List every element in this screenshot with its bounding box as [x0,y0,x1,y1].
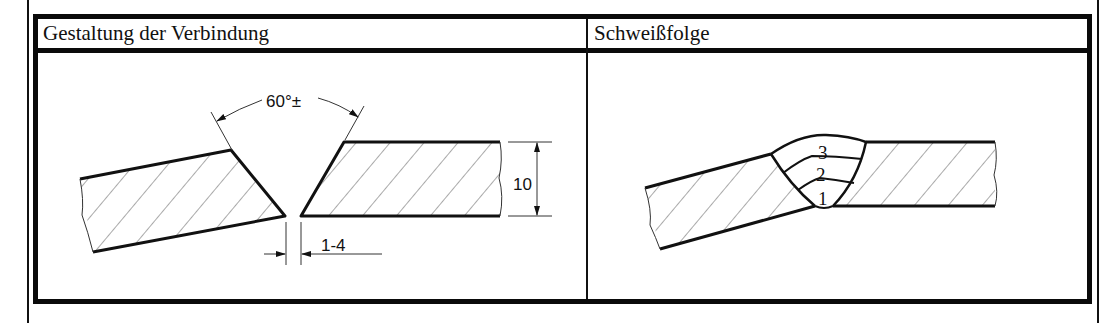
weld-sequence-drawing: 3 2 1 [645,135,997,249]
angle-label: 60°± [266,92,301,111]
thickness-dimension: 10 [508,142,552,216]
pass-3-label: 3 [818,142,828,163]
angle-dimension: 60°± [211,92,364,150]
left-plate [80,150,285,252]
thickness-label: 10 [513,175,532,194]
gap-label: 1-4 [321,236,346,255]
technical-drawing: 60°± 10 1-4 [0,0,1115,323]
joint-design-drawing: 60°± 10 1-4 [80,92,552,265]
right-plate [301,142,502,216]
pass-2-label: 2 [816,164,826,185]
pass-1-label: 1 [818,188,828,209]
gap-dimension: 1-4 [264,222,382,265]
